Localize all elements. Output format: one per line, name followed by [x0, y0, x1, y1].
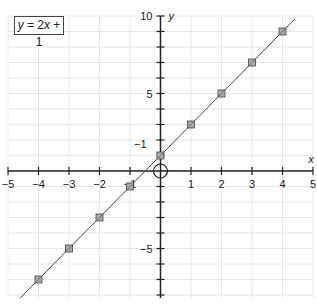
y-tick-label: 10 — [140, 10, 152, 22]
x-tick-label: 2 — [218, 178, 224, 190]
equation-label: y = 2x + 1 — [14, 16, 64, 35]
y-tick-label: 5 — [146, 88, 152, 100]
x-tick-label: 1 — [188, 178, 194, 190]
y-tick-label: −1 — [134, 138, 147, 150]
x-tick-label: −2 — [93, 178, 106, 190]
x-axis-label: x — [307, 153, 314, 165]
x-tick-label: 5 — [310, 178, 316, 190]
x-tick-label: −3 — [63, 178, 76, 190]
x-tick-label: 4 — [279, 178, 285, 190]
x-tick-label: −4 — [32, 178, 45, 190]
legend-eq: = 2 — [24, 18, 44, 32]
chart-plot: −5−4−3−2−112345105−1−5yx — [0, 0, 317, 308]
y-tick-label: −5 — [140, 243, 153, 255]
x-tick-label: 3 — [249, 178, 255, 190]
x-tick-label: −5 — [2, 178, 15, 190]
